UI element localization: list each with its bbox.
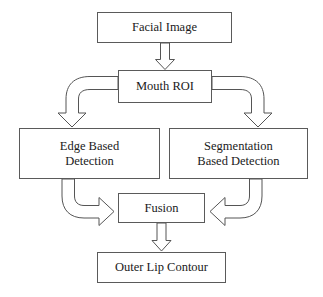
node-fusion: Fusion [118,193,205,223]
node-facial-image: Facial Image [97,12,232,43]
arrow-fusion-to-outer-lip-contour [152,223,171,251]
node-outer-lip-contour-label: Outer Lip Contour [113,260,210,275]
arrow-segmentation-based-to-fusion [210,179,262,226]
node-outer-lip-contour: Outer Lip Contour [97,252,226,283]
node-edge-based-detection: Edge Based Detection [19,128,160,179]
node-mouth-roi-label: Mouth ROI [134,79,196,94]
node-segmentation-based-detection: Segmentation Based Detection [169,128,308,179]
arrow-mouth-roi-to-segmentation-based [212,77,272,128]
node-facial-image-label: Facial Image [130,20,199,35]
flowchart-diagram: Facial Image Mouth ROI Edge Based Detect… [0,0,323,297]
node-segmentation-based-detection-label: Segmentation Based Detection [195,139,281,169]
arrow-mouth-roi-to-edge-based [58,77,118,128]
node-edge-based-detection-label: Edge Based Detection [58,139,121,169]
node-fusion-label: Fusion [142,201,180,216]
arrow-facial-image-to-mouth-roi [156,43,175,70]
arrow-edge-based-to-fusion [62,179,114,226]
node-mouth-roi: Mouth ROI [118,70,212,103]
